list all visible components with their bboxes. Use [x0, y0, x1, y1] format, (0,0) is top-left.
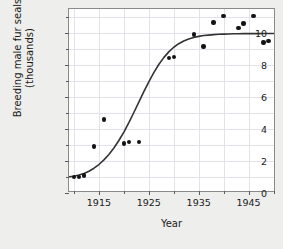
scatter-point [172, 55, 176, 59]
x-tick-mark-minor [124, 191, 125, 194]
x-axis-label: Year [68, 218, 275, 229]
scatter-point [122, 141, 126, 145]
scatter-point [241, 21, 245, 25]
chart-figure: 0246810 1915192519351945 Year Breeding m… [0, 0, 283, 249]
y-tick-mark-minor [66, 113, 69, 114]
x-tick-mark [199, 191, 200, 195]
scatter-point [137, 140, 141, 144]
y-tick-mark-minor [66, 49, 69, 50]
x-tick-mark [249, 191, 250, 195]
y-axis-label-line2: (thousands) [24, 0, 36, 142]
y-tick-mark-minor [66, 177, 69, 178]
plot-inner [69, 9, 274, 191]
y-tick-mark [65, 193, 69, 194]
x-tick-label: 1925 [137, 197, 161, 208]
x-tick-label: 1935 [187, 197, 211, 208]
x-tick-mark-minor [74, 191, 75, 194]
y-tick-mark [65, 161, 69, 162]
y-tick-label: 2 [261, 156, 267, 167]
x-tick-mark [149, 191, 150, 195]
y-tick-mark-minor [66, 17, 69, 18]
y-tick-mark [65, 65, 69, 66]
scatter-point [261, 40, 265, 44]
scatter-point [92, 144, 96, 148]
scatter-point [201, 44, 205, 48]
y-tick-mark [65, 97, 69, 98]
x-tick-label: 1915 [87, 197, 111, 208]
fitted-curve [69, 9, 274, 191]
x-tick-label: 1945 [236, 197, 260, 208]
y-axis-label: Breeding male fur seals (thousands) [12, 0, 36, 142]
y-tick-mark-minor [66, 145, 69, 146]
y-tick-mark [65, 33, 69, 34]
y-axis-label-line1: Breeding male fur seals [12, 0, 23, 117]
x-tick-mark [99, 191, 100, 195]
y-tick-label: 0 [261, 188, 267, 199]
scatter-point [266, 39, 270, 43]
plot-area: 0246810 1915192519351945 [68, 8, 275, 192]
scatter-point [82, 173, 86, 177]
scatter-point [102, 117, 106, 121]
scatter-point [211, 20, 215, 24]
scatter-point [127, 140, 131, 144]
scatter-point [167, 56, 171, 60]
x-tick-mark-minor [224, 191, 225, 194]
y-tick-mark [65, 129, 69, 130]
y-tick-label: 8 [261, 60, 267, 71]
y-tick-label: 4 [261, 124, 267, 135]
x-tick-mark-minor [274, 191, 275, 194]
scatter-point [192, 32, 196, 36]
y-tick-mark-minor [66, 81, 69, 82]
x-tick-mark-minor [174, 191, 175, 194]
y-tick-label: 6 [261, 92, 267, 103]
y-tick-label: 10 [255, 28, 267, 39]
